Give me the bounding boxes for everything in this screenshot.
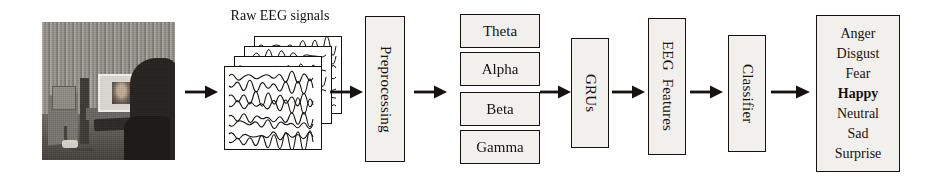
emotion-item[interactable]: Anger — [841, 24, 876, 44]
arrow-grus-to-features — [612, 83, 646, 101]
stage-preprocessing[interactable]: Preprocessing — [365, 16, 405, 162]
eeg-card-front — [224, 66, 322, 150]
stage-eeg-features-label: EEG Features — [659, 41, 676, 131]
raw-eeg-stack — [224, 36, 346, 146]
band-box-alpha[interactable]: Alpha — [460, 52, 540, 86]
band-box-theta[interactable]: Theta — [460, 14, 540, 48]
arrow-bands-to-grus — [540, 83, 572, 101]
band-label: Gamma — [476, 139, 523, 156]
emotion-item[interactable]: Fear — [846, 64, 871, 84]
arrow-photo-to-signals — [185, 83, 219, 101]
raw-eeg-label: Raw EEG signals — [210, 8, 350, 24]
stage-grus-label: GRUs — [582, 74, 599, 112]
band-label: Alpha — [482, 61, 519, 78]
stage-preprocessing-label: Preprocessing — [377, 46, 394, 133]
stage-eeg-features[interactable]: EEG Features — [648, 18, 686, 155]
stage-classifier[interactable]: Classifier — [728, 35, 766, 152]
stage-classifier-label: Classifier — [739, 64, 756, 124]
emotion-item-selected[interactable]: Happy — [838, 84, 878, 104]
emotion-item[interactable]: Sad — [848, 124, 869, 144]
band-label: Beta — [486, 101, 514, 118]
band-box-beta[interactable]: Beta — [460, 92, 540, 126]
photo-grain — [42, 22, 175, 160]
band-box-gamma[interactable]: Gamma — [460, 130, 540, 164]
emotion-output-box[interactable]: Anger Disgust Fear Happy Neutral Sad Sur… — [816, 15, 900, 172]
band-label: Theta — [483, 23, 517, 40]
figure-canvas: Raw EEG signals — [0, 0, 946, 188]
arrow-preprocessing-to-bands — [414, 83, 448, 101]
arrow-signals-to-preprocessing — [330, 83, 364, 101]
stimulus-photograph — [42, 22, 175, 160]
arrow-features-to-classifier — [690, 83, 724, 101]
stage-grus[interactable]: GRUs — [571, 38, 609, 148]
arrow-classifier-to-emotions — [771, 83, 811, 101]
emotion-item[interactable]: Neutral — [837, 104, 879, 124]
emotion-item[interactable]: Disgust — [837, 44, 880, 64]
emotion-item[interactable]: Surprise — [835, 144, 882, 164]
